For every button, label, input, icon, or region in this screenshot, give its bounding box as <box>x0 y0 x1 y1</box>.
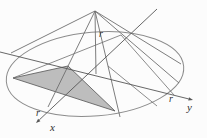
apex-ray-left-silhouette <box>11 11 95 53</box>
cone-circle-diagram: rrrxy <box>0 0 207 138</box>
label-r-top: r <box>99 28 103 39</box>
label-r-right: r <box>169 93 173 104</box>
chord-right-section-edge <box>108 66 157 106</box>
label-r-left: r <box>36 107 40 118</box>
label-x-axis: x <box>49 121 55 133</box>
label-y-axis: y <box>186 101 192 113</box>
shaded-cross-section-triangle <box>13 66 115 111</box>
apex-ray-vertical-height <box>95 11 96 74</box>
figure-canvas: rrrxy <box>0 0 207 138</box>
apex-ray-right-silhouette <box>95 11 181 64</box>
apex-ray-right-mid-slant <box>95 11 179 83</box>
